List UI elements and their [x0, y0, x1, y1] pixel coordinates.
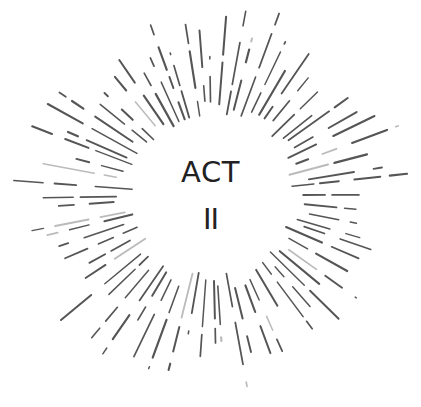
ray-dash [310, 291, 339, 319]
ray-dash [115, 77, 126, 91]
ray-dash [190, 51, 196, 88]
ray-dash [150, 58, 154, 66]
ray-dash [263, 263, 272, 275]
ray-dash [105, 93, 108, 96]
ray-dash [89, 254, 105, 263]
ray-dash [169, 286, 179, 312]
ray-dash [332, 247, 359, 259]
ray-dash [59, 93, 65, 97]
ray-dash [295, 137, 313, 148]
ray-dash [144, 96, 164, 125]
ray-dash [72, 101, 83, 109]
ray-dash [169, 77, 173, 88]
ray-dash [200, 31, 203, 68]
ray-dash [200, 335, 202, 357]
ray-dash [250, 280, 259, 300]
ray-dash [218, 286, 221, 324]
ray-dash [273, 101, 289, 121]
ray-dash [246, 382, 247, 386]
ray-dash [246, 50, 249, 63]
ray-dash [81, 197, 117, 198]
act-label: ACT [0, 155, 421, 189]
ray-dash [170, 53, 171, 55]
ray-dash [293, 287, 310, 307]
ray-dash [243, 11, 246, 25]
ray-dash [265, 107, 273, 119]
ray-dash [95, 117, 132, 142]
ray-dash [100, 104, 124, 124]
ray-dash [68, 132, 78, 136]
ray-dash [119, 60, 135, 83]
ray-dash [142, 129, 153, 140]
ray-dash [300, 92, 317, 109]
ray-dash [173, 327, 179, 352]
ray-dash [32, 126, 52, 134]
ray-dash [307, 321, 313, 328]
ray-dash [134, 314, 154, 356]
ray-dash [149, 367, 150, 369]
ray-dash [226, 274, 232, 307]
ray-dash [251, 39, 252, 42]
ray-dash [122, 110, 133, 120]
ray-dash [174, 66, 180, 86]
ray-dash [98, 238, 113, 245]
ray-dash [113, 315, 130, 339]
ray-dash [144, 73, 151, 85]
ray-dash [260, 326, 270, 353]
ray-dash [289, 250, 317, 270]
ray-dash [265, 52, 281, 85]
ray-dash [322, 149, 336, 154]
ray-dash [325, 276, 342, 288]
ray-dash [275, 267, 284, 277]
act-number: II [0, 202, 421, 236]
ray-dash [259, 34, 272, 68]
ray-dash [235, 288, 243, 318]
ray-dash [111, 240, 130, 251]
ray-dash [192, 273, 199, 313]
ray-dash [275, 14, 279, 25]
ray-dash [169, 364, 171, 370]
ray-dash [352, 130, 387, 143]
ray-dash [43, 197, 73, 198]
ray-dash [182, 274, 193, 318]
ray-dash [277, 339, 282, 351]
ray-dash [106, 307, 118, 321]
ray-dash [396, 126, 399, 127]
ray-dash [198, 102, 200, 116]
ray-dash [277, 282, 303, 317]
ray-dash [179, 102, 185, 119]
ray-dash [335, 98, 348, 107]
ray-dash [161, 280, 171, 300]
ray-dash [227, 92, 231, 115]
ray-dash [103, 348, 107, 354]
ray-dash [48, 104, 83, 123]
ray-dash [151, 25, 154, 35]
ray-dash [59, 243, 68, 246]
ray-dash [159, 47, 167, 70]
ray-dash [340, 239, 371, 250]
ray-dash [298, 78, 309, 91]
ray-dash [232, 43, 240, 85]
ray-dash [161, 82, 179, 121]
ray-dash [247, 336, 251, 352]
ray-dash [138, 307, 146, 320]
ray-dash [132, 130, 146, 142]
ray-dash [204, 86, 205, 102]
ray-dash [223, 17, 226, 55]
ray-dash [333, 116, 374, 136]
ray-dash [252, 93, 261, 112]
ray-dash [316, 254, 347, 271]
ray-dash [355, 297, 356, 298]
ray-dash [289, 111, 330, 140]
ray-dash [152, 272, 166, 295]
ray-dash [202, 280, 205, 327]
ray-dash [289, 238, 308, 249]
ray-dash [153, 320, 167, 358]
ray-dash [284, 42, 285, 44]
ray-dash [139, 257, 148, 265]
ray-dash [214, 281, 215, 319]
ray-dash [156, 94, 174, 126]
ray-dash [65, 139, 88, 148]
ray-dash [92, 328, 100, 338]
ray-dash [234, 80, 242, 109]
